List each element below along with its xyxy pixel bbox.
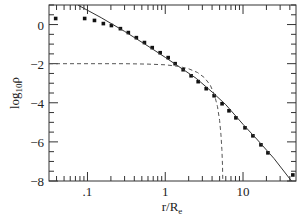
- data-point: [93, 19, 97, 23]
- y-tick-label: −4: [30, 96, 44, 111]
- y-tick-label: −2: [30, 57, 44, 72]
- x-axis-label: r/Re: [162, 199, 183, 215]
- data-point: [83, 17, 87, 21]
- solid-model-curve: [78, 5, 292, 181]
- x-tick-label: 1: [162, 184, 169, 199]
- data-point: [102, 22, 106, 26]
- chart: .1110 0−2−4−6−8 r/Re log10ρ: [0, 0, 301, 215]
- series-layer: [49, 5, 295, 181]
- x-axis: .1110: [57, 5, 290, 199]
- y-tick-label: −6: [30, 135, 44, 150]
- x-tick-label: .1: [83, 184, 93, 199]
- x-tick-label: 10: [237, 184, 250, 199]
- plot-area: [49, 5, 296, 181]
- y-tick-label: −8: [30, 174, 44, 189]
- y-axis: 0−2−4−6−8: [30, 5, 296, 189]
- y-tick-label: 0: [38, 18, 45, 33]
- data-point: [54, 17, 58, 21]
- plot-frame: [49, 5, 296, 181]
- y-axis-label: log10ρ: [7, 77, 24, 109]
- data-point: [291, 173, 295, 177]
